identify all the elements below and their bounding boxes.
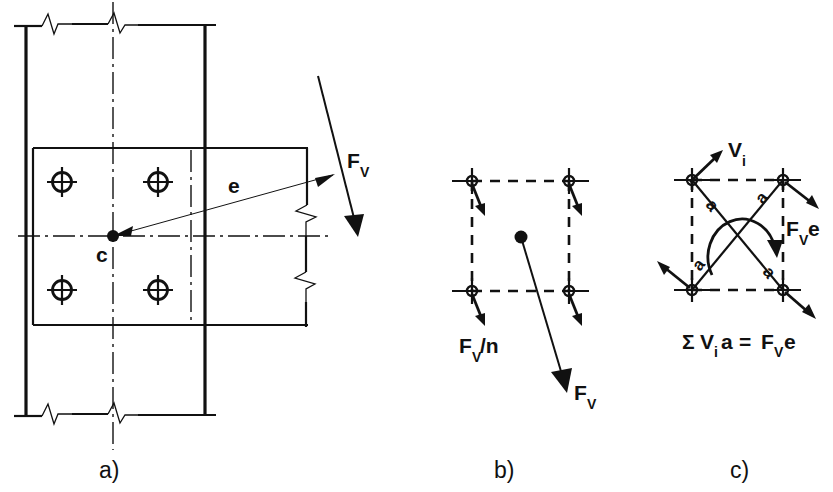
shear-arrow-b-2	[569, 184, 582, 216]
bolt-top-left	[47, 167, 77, 197]
shear-arrow-b-4	[569, 294, 582, 326]
per-bolt-force-label-group: F V /n	[459, 334, 499, 365]
panel-a-caption: a)	[99, 457, 119, 483]
resultant-force-b: F V	[515, 231, 598, 413]
figure-root: c e F V a)	[0, 0, 833, 492]
force-label-a-sub: V	[360, 164, 370, 180]
applied-force-a: F V	[318, 76, 370, 237]
centroid-label: c	[96, 243, 108, 266]
plate-right-edge-broken	[295, 148, 316, 327]
engineering-diagram-svg: c e F V a)	[0, 0, 833, 492]
eccentricity-dimension: e	[113, 174, 335, 236]
force-arrowhead-a	[344, 214, 364, 237]
equation-rhs-f-sub: V	[774, 344, 784, 360]
moment-label-tail: e	[808, 217, 820, 240]
shear-arrow-b-1	[472, 184, 485, 216]
equation-lhs-a: a	[721, 330, 733, 353]
resultant-label-b-sub: V	[587, 396, 597, 412]
equation-equals: =	[739, 330, 751, 353]
distance-labels-c: a a a a	[688, 188, 780, 282]
equation-rhs-f: F	[761, 330, 774, 353]
moment-label-group: F V e	[786, 217, 820, 248]
shear-arrow-b-3	[472, 294, 485, 326]
panel-c: a a a a	[657, 138, 820, 483]
panel-b: F V /n F V b)	[452, 168, 597, 483]
torsion-arrow-c-br	[785, 292, 816, 319]
resultant-line-b	[521, 237, 563, 378]
moment-arc-arrowhead	[767, 240, 783, 258]
per-bolt-force-label-tail: /n	[480, 334, 499, 357]
bolt-shear-label-group: V i	[728, 138, 746, 169]
equilibrium-equation: Σ V i a = F V e	[682, 330, 796, 360]
eccentricity-line	[113, 175, 333, 236]
bolt-shear-label-sub: i	[742, 153, 746, 169]
break-symbol-plate-upper	[296, 205, 316, 236]
per-bolt-force-label: F	[459, 334, 472, 357]
equation-lhs-v-sub: i	[714, 344, 718, 360]
break-symbol-bottom-left	[42, 404, 72, 424]
equation-rhs-e: e	[784, 330, 796, 353]
panel-c-caption: c)	[730, 457, 749, 483]
resultant-arrowhead-b	[551, 368, 572, 393]
column-outline	[14, 13, 216, 424]
moment-label: F	[786, 217, 799, 240]
break-symbol-plate-lower	[295, 272, 315, 302]
resultant-label-b: F	[574, 381, 587, 404]
panel-a: c e F V a)	[14, 2, 370, 483]
equation-sigma: Σ	[682, 330, 695, 353]
panel-b-caption: b)	[494, 457, 514, 483]
torsion-arrow-c-tr	[785, 182, 819, 209]
bolt-bottom-left	[47, 275, 77, 305]
equation-lhs-v: V	[700, 330, 714, 353]
eccentricity-arrowhead-right	[315, 174, 335, 187]
break-symbol-top-left	[42, 14, 72, 34]
torsion-arrow-c-bl	[657, 261, 690, 288]
torsion-arrow-c-tl	[690, 150, 723, 182]
bolt-shear-label: V	[728, 138, 742, 161]
bolt-top-right	[143, 167, 173, 197]
bolt-bottom-right	[143, 275, 173, 305]
eccentricity-label: e	[228, 174, 240, 197]
force-label-a: F	[347, 149, 360, 172]
